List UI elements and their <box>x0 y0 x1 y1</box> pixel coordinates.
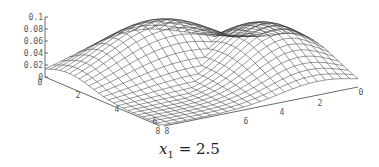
mesh-line <box>162 79 358 125</box>
z-tick-label: 0.06 <box>24 37 43 46</box>
mesh-line <box>157 74 353 123</box>
right-axis-tick-label: 8 <box>165 127 170 136</box>
z-tick-label: 0.02 <box>24 61 43 70</box>
right-axis-tick-label: 0 <box>359 88 364 97</box>
left-axis-tick-label: 6 <box>153 117 158 126</box>
right-axis-tick-label: 6 <box>244 117 249 126</box>
left-axis-tick-label: 8 <box>156 127 161 136</box>
mesh-line <box>138 50 334 115</box>
right-axis-tick-label: 4 <box>280 108 285 117</box>
mesh-line <box>94 38 211 115</box>
left-axis-tick-label: 4 <box>115 105 120 114</box>
left-axis <box>45 77 160 126</box>
mesh-line <box>74 23 270 76</box>
z-tick-label: 0.04 <box>24 49 43 58</box>
mesh-line <box>123 33 319 108</box>
left-axis-tick-label: 2 <box>76 91 81 100</box>
mesh-line <box>50 25 246 69</box>
plot-caption: x1 = 2.5 <box>0 140 379 160</box>
surface-plot: 00.020.040.060.080.10246802468 <box>0 0 379 140</box>
z-tick-label: 0.08 <box>24 25 43 34</box>
left-axis-tick-label: 0 <box>38 78 43 87</box>
tick-labels: 00.020.040.060.080.10246802468 <box>24 13 364 136</box>
surface-mesh <box>45 19 358 126</box>
z-tick-label: 0.1 <box>29 13 44 22</box>
right-axis-tick-label: 2 <box>318 99 323 108</box>
mesh-line <box>60 19 256 70</box>
